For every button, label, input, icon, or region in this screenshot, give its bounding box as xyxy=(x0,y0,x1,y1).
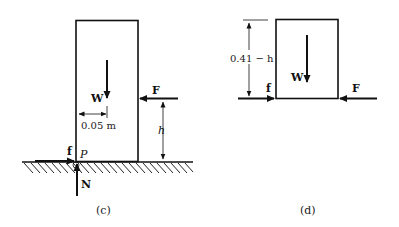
figure-c: W 0.05 m F h f P N (c) xyxy=(22,21,193,218)
point-p-label: P xyxy=(79,148,88,161)
height-label-d: 0.41 − h xyxy=(230,53,274,64)
height-label-c: h xyxy=(158,124,165,137)
friction-label-d: f xyxy=(266,82,272,95)
normal-label-c: N xyxy=(81,178,91,191)
offset-label-c: 0.05 m xyxy=(81,120,116,131)
force-label-d: F xyxy=(352,82,360,95)
force-label-c: F xyxy=(152,84,160,97)
friction-label-c: f xyxy=(67,145,73,158)
caption-c: (c) xyxy=(96,204,111,217)
ground-hatching xyxy=(24,163,193,173)
figure-d: W 0.41 − h f F (d) xyxy=(228,20,377,218)
diagram-canvas: W 0.05 m F h f P N (c) W 0.41 − h xyxy=(0,0,399,227)
caption-d: (d) xyxy=(300,204,316,217)
weight-label-d: W xyxy=(290,71,304,84)
weight-label-c: W xyxy=(90,92,104,105)
